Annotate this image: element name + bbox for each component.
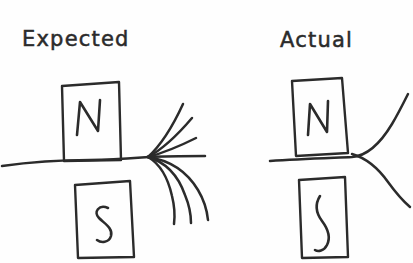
actual-north-magnet-box: [292, 78, 348, 156]
actual-field-line-lower-to-upper: [270, 94, 408, 161]
expected-field-line-3: [148, 138, 196, 157]
actual-field-line-upper-to-lower: [352, 154, 410, 207]
expected-field-line-7: [148, 157, 175, 224]
panel-expected: Expected: [2, 27, 208, 258]
expected-south-pole-glyph: [97, 207, 112, 242]
expected-field-line-4: [148, 156, 205, 157]
panel-expected-title: Expected: [22, 27, 130, 51]
expected-south-magnet-box: [75, 181, 134, 258]
expected-north-pole-glyph: [77, 100, 100, 135]
panel-actual: Actual: [270, 28, 410, 258]
panel-actual-title: Actual: [280, 28, 353, 52]
actual-south-pole-glyph: [315, 196, 329, 251]
actual-south-magnet-box: [299, 177, 348, 258]
expected-field-line-1: [148, 104, 183, 157]
sketch-canvas: Expected Actual: [0, 0, 413, 263]
actual-north-pole-glyph: [308, 101, 328, 135]
magnet-field-diagram: Expected Actual: [0, 0, 413, 263]
expected-field-line-5: [148, 157, 208, 220]
